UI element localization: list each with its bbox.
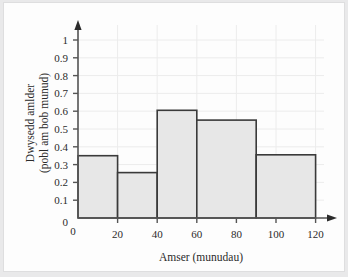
y-tick-label: 0: [63, 216, 69, 228]
x-tick-label: 40: [152, 228, 164, 240]
bar-0-20: [78, 156, 118, 218]
x-tick-label: 0: [70, 225, 76, 237]
x-tick-labels: 0 20 40 60 80 100 120: [70, 225, 324, 240]
y-tick-label: 1: [63, 34, 69, 46]
bar-40-60: [157, 110, 197, 218]
x-axis-title: Amser (munudau): [159, 251, 243, 264]
screenshot-page: 0 0.1 0.2 0.3 0.4 0.5 0.6 0.7 0.8 0.9 1 …: [0, 0, 348, 277]
y-tick-label: 0.9: [54, 52, 68, 64]
y-tick-label: 0.5: [54, 123, 68, 135]
chart-paper: 0 0.1 0.2 0.3 0.4 0.5 0.6 0.7 0.8 0.9 1 …: [4, 3, 344, 271]
x-tick-label: 100: [268, 228, 285, 240]
y-tick-labels: 0 0.1 0.2 0.3 0.4 0.5 0.6 0.7 0.8 0.9 1: [54, 34, 68, 228]
bar-20-40: [118, 173, 158, 218]
y-axis-title-line2: (pobl am bob munud): [38, 73, 51, 173]
y-tick-label: 0.7: [54, 87, 68, 99]
y-tick-label: 0.3: [54, 159, 68, 171]
y-tick-label: 0.4: [54, 141, 68, 153]
y-axis-title: Dwysedd amlder (pobl am bob munud): [24, 73, 51, 173]
x-tick-label: 80: [231, 228, 243, 240]
x-tick-label: 20: [112, 228, 124, 240]
histogram-chart: 0 0.1 0.2 0.3 0.4 0.5 0.6 0.7 0.8 0.9 1 …: [4, 3, 344, 271]
y-tick-label: 0.8: [54, 70, 68, 82]
bar-90-120: [256, 155, 315, 218]
y-axis-title-line1: Dwysedd amlder: [24, 84, 37, 162]
y-tick-label: 0.2: [54, 176, 68, 188]
x-tick-label: 60: [191, 228, 203, 240]
y-tick-label: 0.6: [54, 105, 68, 117]
y-tick-label: 0.1: [54, 194, 68, 206]
histogram-bars: [78, 110, 316, 218]
x-tick-label: 120: [307, 228, 324, 240]
bar-60-90: [197, 120, 256, 218]
